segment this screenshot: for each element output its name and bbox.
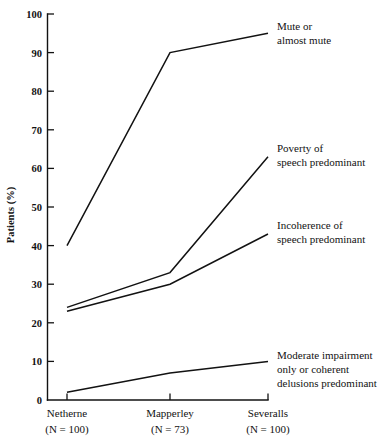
- chart-canvas: 100 90 80 70 60 50 40 30 20 10 0 Patient…: [0, 0, 390, 444]
- annotation-mute-line1: Mute or: [277, 20, 312, 32]
- annotation-poverty-line1: Poverty of: [277, 142, 323, 154]
- x-category-label-mapperley: Mapperley: [146, 407, 194, 419]
- x-category-sublabel-mapperley: (N = 73): [151, 423, 189, 436]
- x-category-label-severalls: Severalls: [248, 407, 288, 419]
- annotation-mute-line2: almost mute: [277, 34, 331, 46]
- y-tick-marks: [48, 14, 55, 361]
- x-tick-marks: [67, 394, 268, 401]
- y-tick-label-60: 60: [32, 163, 43, 174]
- y-tick-label-50: 50: [32, 202, 43, 213]
- y-tick-label-20: 20: [32, 318, 43, 329]
- annotation-incoherence-of-speech: Incoherence of speech predominant: [277, 219, 365, 245]
- annotation-poverty-of-speech: Poverty of speech predominant: [277, 142, 365, 168]
- y-tick-label-90: 90: [32, 48, 43, 59]
- series-line-moderate-impairment: [67, 361, 268, 392]
- series-line-mute-or-almost-mute: [67, 33, 268, 245]
- annotation-moderate-line3: delusions predominant: [277, 377, 377, 389]
- annotation-moderate-line1: Moderate impairment: [277, 349, 373, 361]
- x-category-sublabel-netherne: (N = 100): [45, 423, 89, 436]
- y-tick-label-100: 100: [26, 9, 42, 20]
- annotation-incoherence-line2: speech predominant: [277, 233, 365, 245]
- x-category-sublabel-severalls: (N = 100): [246, 423, 290, 436]
- y-tick-label-10: 10: [32, 356, 43, 367]
- line-chart: 100 90 80 70 60 50 40 30 20 10 0 Patient…: [0, 0, 390, 444]
- y-tick-label-70: 70: [32, 125, 43, 136]
- annotation-incoherence-line1: Incoherence of: [277, 219, 343, 231]
- series-line-incoherence-of-speech: [67, 234, 268, 311]
- annotation-poverty-line2: speech predominant: [277, 156, 365, 168]
- annotation-moderate-line2: only or coherent: [277, 363, 349, 375]
- annotation-mute-or-almost-mute: Mute or almost mute: [277, 20, 331, 46]
- annotation-moderate-impairment: Moderate impairment only or coherent del…: [277, 349, 377, 389]
- y-tick-label-80: 80: [32, 86, 43, 97]
- y-axis-title: Patients (%): [5, 186, 17, 243]
- y-tick-label-30: 30: [32, 279, 43, 290]
- y-tick-label-0: 0: [37, 395, 42, 406]
- y-tick-label-40: 40: [32, 241, 43, 252]
- x-category-label-netherne: Netherne: [47, 407, 87, 419]
